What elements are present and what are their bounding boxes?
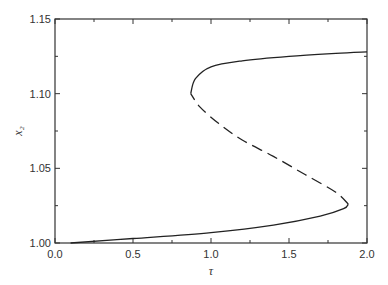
x-axis-label: τ bbox=[209, 264, 214, 278]
plot-frame bbox=[55, 19, 367, 243]
y-tick-label: 1.15 bbox=[30, 13, 51, 25]
y-tick-label: 1.10 bbox=[30, 88, 51, 100]
axis-tick-labels: 0.00.51.01.52.01.001.051.101.15 bbox=[30, 13, 375, 260]
x-tick-label: 0.5 bbox=[125, 248, 140, 260]
y-tick-label: 1.05 bbox=[30, 162, 51, 174]
x-tick-label: 1.5 bbox=[281, 248, 296, 260]
x-tick-label: 0.0 bbox=[47, 248, 62, 260]
x-tick-label: 2.0 bbox=[359, 248, 374, 260]
y-axis-label: x₂ bbox=[11, 126, 25, 137]
stable-lower-branch-line bbox=[71, 204, 349, 243]
stable-upper-branch-line bbox=[191, 52, 367, 94]
data-series bbox=[71, 52, 367, 243]
axis-ticks bbox=[55, 19, 367, 243]
y-tick-label: 1.00 bbox=[30, 237, 51, 249]
unstable-middle-branch-line bbox=[191, 94, 349, 205]
bifurcation-chart: 0.00.51.01.52.01.001.051.101.15 τ x₂ bbox=[0, 0, 388, 285]
x-tick-label: 1.0 bbox=[203, 248, 218, 260]
